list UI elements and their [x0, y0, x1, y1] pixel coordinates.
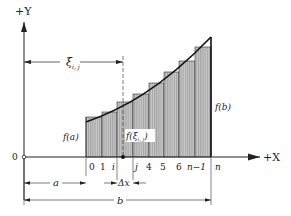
tick-labels: 0 1 i j 4 5 6 n−1 n [86, 158, 221, 205]
tick-n: n [215, 162, 221, 172]
tick-5: 5 [160, 162, 166, 172]
tick-n-1: n−1 [187, 162, 206, 172]
tick-0: 0 [89, 162, 95, 172]
b-label: b [117, 195, 123, 206]
bar-n-1 [195, 47, 211, 157]
xi-label: ξi, j [66, 56, 80, 71]
bar-5 [164, 72, 179, 157]
a-label: a [53, 177, 59, 188]
bar-0 [86, 117, 102, 157]
x-axis-label: +X [263, 151, 280, 164]
f-b-label: f(b) [214, 102, 232, 112]
f-a-label: f(a) [62, 132, 79, 142]
origin-label: 0 [12, 152, 18, 162]
delta-x-label: Δx [117, 178, 130, 188]
tick-1: 1 [100, 162, 106, 172]
tick-j: j [133, 162, 138, 172]
riemann-sum-diagram: +Y +X 0 ξi, j f(ξi, j) f(a) f(b) 0 1 i j… [0, 0, 291, 216]
bar-6 [179, 61, 195, 157]
bar-3 [133, 94, 149, 157]
xi-point [121, 155, 125, 159]
tick-6: 6 [176, 162, 182, 172]
tick-i: i [112, 162, 115, 172]
bar-4 [149, 83, 164, 157]
y-axis-label: +Y [15, 5, 32, 18]
tick-4: 4 [146, 162, 152, 172]
bar-1 [102, 112, 117, 157]
